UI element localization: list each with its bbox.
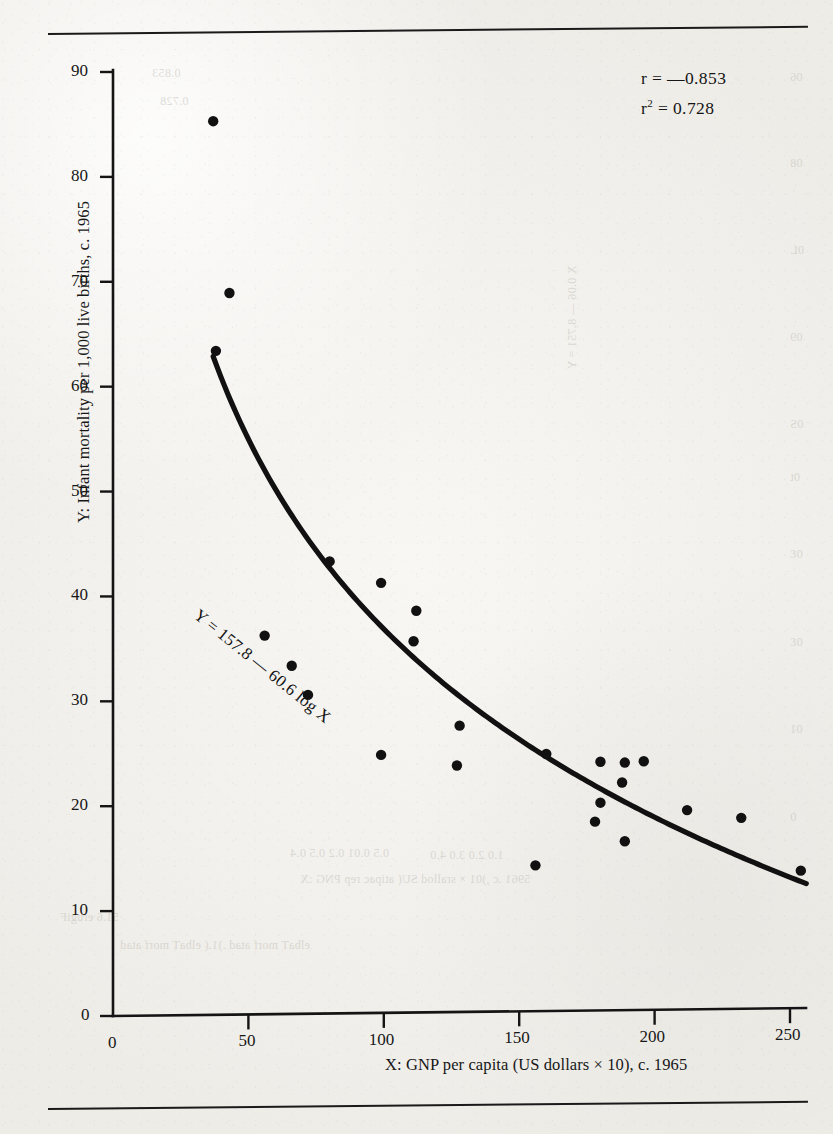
- scatter-plot: [0, 0, 833, 1134]
- y-tick-label-0: 0: [81, 1005, 90, 1025]
- data-point: [617, 777, 627, 787]
- x-tick-label-0: 0: [108, 1033, 117, 1053]
- y-tick-label-90: 90: [71, 61, 88, 81]
- x-tick-label-150: 150: [504, 1028, 530, 1048]
- axes: [113, 70, 806, 1016]
- y-tick-label-10: 10: [71, 900, 88, 920]
- data-point: [211, 346, 221, 356]
- data-point: [376, 578, 386, 588]
- data-point: [411, 606, 421, 616]
- data-point: [259, 630, 269, 640]
- data-point: [224, 288, 234, 298]
- x-axis-line: [113, 1008, 806, 1016]
- x-axis-ticks: [248, 1008, 790, 1029]
- data-point: [530, 860, 540, 870]
- data-points: [208, 116, 806, 876]
- x-tick-label-250: 250: [775, 1025, 801, 1045]
- y-tick-label-20: 20: [71, 795, 88, 815]
- data-point: [796, 865, 806, 875]
- r-squared-value: r2 = 0.728: [641, 97, 714, 119]
- y-tick-label-30: 30: [71, 690, 88, 710]
- x-tick-label-50: 50: [238, 1031, 255, 1051]
- data-point: [682, 805, 692, 815]
- data-point: [454, 720, 464, 730]
- correlation-coefficient: r = —0.853: [641, 68, 726, 89]
- regression-curve: [213, 356, 806, 883]
- data-point: [620, 757, 630, 767]
- data-point: [208, 116, 218, 126]
- data-point: [620, 836, 630, 846]
- plot-svg: [0, 0, 833, 1134]
- data-point: [376, 750, 386, 760]
- data-point: [541, 749, 551, 759]
- data-point: [287, 661, 297, 671]
- data-point: [595, 797, 605, 807]
- data-point: [595, 757, 605, 767]
- y-axis-title: Y: Infant mortality per 1,000 live birth…: [74, 82, 94, 642]
- data-point: [639, 756, 649, 766]
- r-squared-number: = 0.728: [653, 98, 714, 118]
- data-point: [736, 813, 746, 823]
- x-tick-label-200: 200: [640, 1027, 666, 1047]
- scanned-figure-page: 0.8530.72806080L090S0t0Ɛ0Ɛ0105961 .c ,sh…: [0, 0, 833, 1134]
- data-point: [324, 556, 334, 566]
- data-point: [590, 816, 600, 826]
- data-point: [452, 760, 462, 770]
- y-axis-ticks: [100, 72, 113, 1016]
- data-point: [408, 636, 418, 646]
- x-tick-label-100: 100: [369, 1030, 395, 1050]
- x-axis-title: X: GNP per capita (US dollars × 10), c. …: [385, 1055, 687, 1075]
